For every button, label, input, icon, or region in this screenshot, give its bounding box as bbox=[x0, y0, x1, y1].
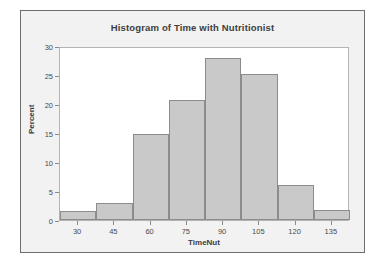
histogram-bar bbox=[96, 203, 132, 220]
x-axis-tick bbox=[113, 221, 114, 225]
y-axis-title: Percent bbox=[27, 105, 36, 134]
x-axis-tick-label: 75 bbox=[182, 227, 190, 236]
x-axis-tick-label: 135 bbox=[325, 227, 338, 236]
y-axis-tick-label: 25 bbox=[45, 72, 53, 81]
histogram-bar bbox=[241, 74, 277, 220]
figure-panel: Histogram of Time with Nutritionist Perc… bbox=[20, 10, 365, 253]
y-axis-tick-label: 30 bbox=[45, 43, 53, 52]
x-axis-tick-label: 60 bbox=[145, 227, 153, 236]
x-axis-tick-label: 90 bbox=[218, 227, 226, 236]
plot-area bbox=[59, 47, 349, 221]
x-axis-tick-label: 105 bbox=[252, 227, 265, 236]
histogram-bar bbox=[314, 210, 350, 220]
y-axis: 051015202530 bbox=[51, 47, 59, 221]
x-axis-title: TimeNut bbox=[59, 238, 349, 247]
y-axis-tick-label: 0 bbox=[49, 217, 53, 226]
bars-layer bbox=[60, 48, 348, 220]
x-axis-tick bbox=[258, 221, 259, 225]
histogram-bar bbox=[205, 58, 241, 220]
x-axis-tick bbox=[150, 221, 151, 225]
x-axis-tick bbox=[295, 221, 296, 225]
histogram-bar bbox=[133, 134, 169, 220]
x-axis-tick bbox=[331, 221, 332, 225]
y-axis-tick-label: 20 bbox=[45, 101, 53, 110]
x-axis-tick bbox=[186, 221, 187, 225]
histogram-bar bbox=[169, 100, 205, 220]
x-axis-tick-label: 30 bbox=[73, 227, 81, 236]
y-axis-tick-label: 15 bbox=[45, 130, 53, 139]
x-axis-tick bbox=[222, 221, 223, 225]
y-axis-tick-label: 10 bbox=[45, 159, 53, 168]
y-axis-tick-label: 5 bbox=[49, 188, 53, 197]
x-axis: 3045607590105120135 bbox=[59, 221, 349, 229]
chart-title: Histogram of Time with Nutritionist bbox=[21, 22, 364, 33]
histogram-bar bbox=[60, 211, 96, 220]
x-axis-tick-label: 45 bbox=[109, 227, 117, 236]
histogram-bar bbox=[278, 185, 314, 220]
x-axis-tick bbox=[77, 221, 78, 225]
x-axis-tick-label: 120 bbox=[288, 227, 301, 236]
